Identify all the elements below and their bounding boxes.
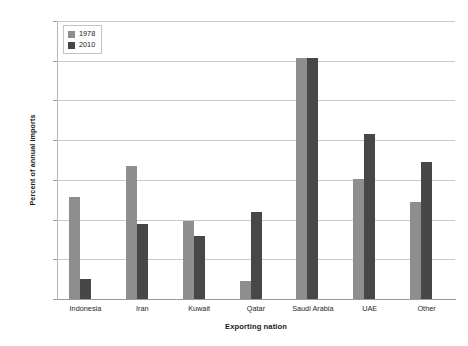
legend-swatch-1978 [68,31,75,38]
x-tick-label: Kuwait [171,304,228,313]
bar-group [341,21,398,299]
y-tick-mark [53,299,57,300]
x-tick-label: Other [398,304,455,313]
bar-series-layer [57,21,455,299]
bar-indonesia-1978 [69,197,80,299]
bar-other-1978 [410,202,421,299]
legend: 1978 2010 [63,25,102,54]
x-axis-title: Exporting nation [57,322,455,331]
bar-group [114,21,171,299]
bar-kuwait-2010 [194,236,205,299]
bar-indonesia-2010 [80,279,91,299]
x-tick-label: Iran [114,304,171,313]
x-tick-label: UAE [341,304,398,313]
bar-uae-2010 [364,134,375,299]
bar-chart: Percent of annual imports 05101520253035… [0,0,468,346]
bar-group [171,21,228,299]
x-tick-label: Saudi Arabia [284,304,341,313]
bar-uae-1978 [353,179,364,299]
bar-saudi-arabia-2010 [307,58,318,299]
legend-label-2010: 2010 [79,41,95,49]
legend-label-1978: 1978 [79,30,95,38]
bar-qatar-1978 [240,281,251,299]
bar-other-2010 [421,162,432,299]
bar-group [228,21,285,299]
bar-iran-2010 [137,224,148,299]
bar-iran-1978 [126,166,137,299]
legend-item-2010: 2010 [68,41,95,49]
bar-group [284,21,341,299]
bar-saudi-arabia-1978 [296,58,307,299]
bar-qatar-2010 [251,212,262,299]
x-tick-label: Indonesia [57,304,114,313]
legend-swatch-2010 [68,42,75,49]
bar-group [398,21,455,299]
legend-item-1978: 1978 [68,30,95,38]
bar-group [57,21,114,299]
x-tick-label: Qatar [228,304,285,313]
bar-kuwait-1978 [183,221,194,299]
y-axis-title: Percent of annual imports [26,21,40,299]
